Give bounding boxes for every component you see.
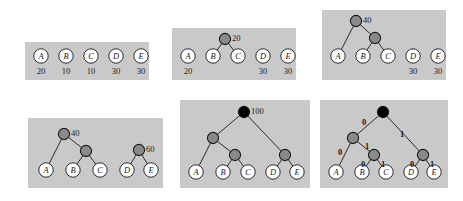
leaf-weight: 30 [255, 67, 271, 76]
leaf-label: C [97, 166, 103, 175]
leaf-label: E [284, 52, 290, 61]
tree-graphics: ABCDE [322, 10, 446, 80]
internal-node [219, 33, 230, 44]
leaf-label: E [147, 166, 153, 175]
node-weight: 60 [146, 145, 155, 154]
internal-node [207, 132, 218, 143]
internal-node [350, 15, 361, 26]
edge-bit-label: 0 [338, 148, 342, 157]
leaf-weight: 30 [133, 67, 149, 76]
leaf-label: E [434, 52, 440, 61]
edge-bit-label: 0 [410, 160, 414, 169]
leaf-label: C [235, 52, 241, 61]
internal-node [279, 149, 290, 160]
leaf-label: C [383, 168, 389, 177]
edge-bit-label: 1 [400, 130, 404, 139]
tree-graphics: ABCDE [28, 118, 163, 188]
leaf-weight: 20 [180, 67, 196, 76]
leaf-weight: 10 [83, 67, 99, 76]
leaf-label: A [42, 166, 49, 175]
tree-panel: ABCDE20303020 [172, 28, 296, 80]
leaf-weight: 30 [430, 67, 446, 76]
leaf-label: B [63, 52, 68, 61]
internal-node [347, 132, 358, 143]
leaf-label: C [385, 52, 391, 61]
leaf-label: D [112, 52, 119, 61]
node-weight: 40 [363, 16, 372, 25]
tree-panel: ABCDE2010103030 [25, 42, 149, 80]
node-weight: 20 [232, 34, 241, 43]
leaf-weight: 30 [108, 67, 124, 76]
leaf-weight: 30 [280, 67, 296, 76]
leaf-label: D [259, 52, 266, 61]
leaf-label: C [88, 52, 94, 61]
huffman-tree-figure: ABCDE2010103030ABCDE20303020ABCDE303040A… [0, 0, 463, 201]
leaf-label: D [407, 168, 414, 177]
tree-edge [244, 112, 285, 155]
edge-bit-label: 0 [361, 160, 365, 169]
edge-bit-label: 1 [430, 160, 434, 169]
internal-node [417, 149, 428, 160]
tree-graphics: ABCDE [320, 100, 448, 188]
tree-panel: ABCDE4060 [28, 118, 163, 188]
leaf-label: D [409, 52, 416, 61]
leaf-label: B [359, 168, 364, 177]
internal-node [368, 149, 379, 160]
root-node [238, 106, 249, 117]
leaf-label: A [334, 52, 341, 61]
leaf-label: B [70, 166, 75, 175]
leaf-label: E [293, 168, 299, 177]
leaf-label: E [430, 168, 436, 177]
internal-node [229, 149, 240, 160]
edge-bit-label: 1 [365, 142, 369, 151]
tree-graphics: ABCDE [180, 100, 310, 188]
node-weight: 100 [251, 107, 264, 116]
leaf-weight: 20 [33, 67, 49, 76]
leaf-label: C [245, 168, 251, 177]
edge-bit-label: 1 [381, 160, 385, 169]
leaf-label: B [360, 52, 365, 61]
root-node [377, 106, 388, 117]
node-weight: 40 [71, 129, 80, 138]
leaf-label: D [269, 168, 276, 177]
leaf-label: A [192, 168, 199, 177]
leaf-label: A [184, 52, 191, 61]
leaf-label: B [220, 168, 225, 177]
internal-node [133, 144, 144, 155]
leaf-weight: 30 [405, 67, 421, 76]
leaf-label: E [137, 52, 143, 61]
internal-node [80, 145, 91, 156]
internal-node [58, 128, 69, 139]
leaf-label: B [210, 52, 215, 61]
tree-panel: ABCDE100 [180, 100, 310, 188]
leaf-label: D [123, 166, 130, 175]
internal-node [369, 32, 380, 43]
leaf-label: A [332, 168, 339, 177]
tree-panel: ABCDE01010101 [320, 100, 448, 188]
leaf-label: A [37, 52, 44, 61]
edge-bit-label: 0 [362, 118, 366, 127]
tree-panel: ABCDE303040 [322, 10, 446, 80]
leaf-weight: 10 [58, 67, 74, 76]
